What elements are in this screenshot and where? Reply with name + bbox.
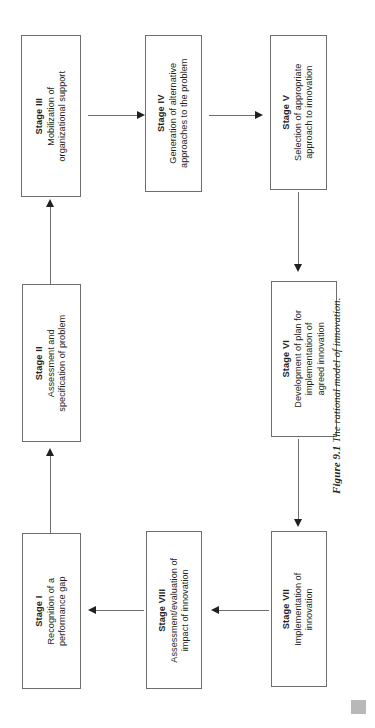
stage-viii-title: Stage VIII [157, 558, 168, 663]
stage-iii-content: Stage III Mobilization of organizational… [34, 71, 69, 162]
arrowhead-stage-vi-to-stage-vii [294, 519, 302, 527]
stage-box-stage-vi: Stage VI Development of plan for impleme… [271, 281, 337, 437]
stage-viii-desc-line-2: impact of innovation [180, 558, 191, 663]
stage-vii-desc-line-1: Implementation of [294, 572, 305, 645]
arrowhead-stage-v-to-stage-vi [294, 264, 302, 272]
stage-iv-desc-line-2: approaches to the problem [180, 59, 191, 168]
stage-vi-content: Stage VI Development of plan for impleme… [281, 310, 327, 408]
stage-iii-desc-line-2: organizational support [57, 71, 68, 162]
connector-stage-vi-to-stage-vii [298, 439, 299, 519]
connector-stage-vii-to-stage-viii [219, 610, 269, 611]
connector-stage-iii-to-stage-iv [88, 115, 137, 116]
stage-v-title: Stage V [281, 64, 292, 161]
arrowhead-stage-iii-to-stage-iv [137, 111, 145, 119]
stage-vi-desc-line-3: agreed innovation [316, 310, 327, 408]
stage-box-stage-i: Stage I Recognition of a performance gap [22, 533, 81, 689]
stage-v-desc-line-1: Selection of appropriate [294, 64, 305, 161]
stage-i-desc-line-2: performance gap [58, 576, 69, 646]
connector-stage-v-to-stage-vi [298, 192, 299, 264]
stage-iii-desc-line-1: Mobilization of [46, 71, 57, 162]
stage-iv-content: Stage IV Generation of alternative appro… [156, 59, 191, 168]
connector-stage-iv-to-stage-v [209, 115, 255, 116]
figure-caption-number: Figure 9.1 [330, 445, 342, 494]
figure-caption-text: The rational model of innovation. [331, 298, 342, 443]
stage-vii-content: Stage VII Implementation of innovation [282, 572, 317, 645]
stage-v-content: Stage V Selection of appropriate approac… [281, 64, 316, 161]
stage-box-stage-viii: Stage VIII Assessment/evaluation of impa… [146, 531, 202, 689]
stage-ii-content: Stage II Assessment and specification of… [34, 315, 69, 412]
stage-i-title: Stage I [34, 576, 45, 646]
stage-box-stage-vii: Stage VII Implementation of innovation [271, 531, 327, 687]
connector-stage-ii-to-stage-iii [50, 206, 51, 284]
arrowhead-stage-ii-to-stage-iii [46, 199, 54, 207]
stage-vi-desc-line-2: implementation of [305, 310, 316, 408]
stage-vi-title: Stage VI [281, 310, 292, 408]
figure-canvas: Stage III Mobilization of organizational… [0, 0, 375, 728]
stage-box-stage-v: Stage V Selection of appropriate approac… [270, 35, 327, 190]
corner-mark [351, 700, 366, 714]
stage-vii-title: Stage VII [282, 572, 293, 645]
stage-vi-desc-line-1: Development of plan for [294, 310, 305, 408]
stage-i-desc-line-1: Recognition of a [47, 576, 58, 646]
stage-v-desc-line-2: approach to innovation [305, 64, 316, 161]
stage-i-content: Stage I Recognition of a performance gap [34, 576, 69, 646]
arrowhead-stage-i-to-stage-ii [46, 448, 54, 456]
stage-ii-desc-line-1: Assessment and [47, 315, 58, 412]
stage-ii-desc-line-2: specification of problem [58, 315, 69, 412]
arrowhead-stage-vii-to-stage-viii [211, 606, 219, 614]
stage-box-stage-ii: Stage II Assessment and specification of… [22, 284, 81, 442]
figure-caption: Figure 9.1 The rational model of innovat… [330, 254, 348, 494]
arrowhead-stage-viii-to-stage-i [88, 606, 96, 614]
connector-stage-viii-to-stage-i [96, 610, 144, 611]
arrowhead-stage-iv-to-stage-v [255, 111, 263, 119]
stage-ii-title: Stage II [34, 315, 45, 412]
stage-viii-desc-line-1: Assessment/evaluation of [169, 558, 180, 663]
connector-stage-i-to-stage-ii [50, 455, 51, 533]
stage-box-stage-iii: Stage III Mobilization of organizational… [21, 35, 81, 197]
stage-viii-content: Stage VIII Assessment/evaluation of impa… [157, 558, 192, 663]
stage-iv-desc-line-1: Generation of alternative [169, 59, 180, 168]
stage-vii-desc-line-2: innovation [305, 572, 316, 645]
stage-box-stage-iv: Stage IV Generation of alternative appro… [145, 35, 202, 192]
stage-iii-title: Stage III [34, 71, 45, 162]
stage-iv-title: Stage IV [156, 59, 167, 168]
